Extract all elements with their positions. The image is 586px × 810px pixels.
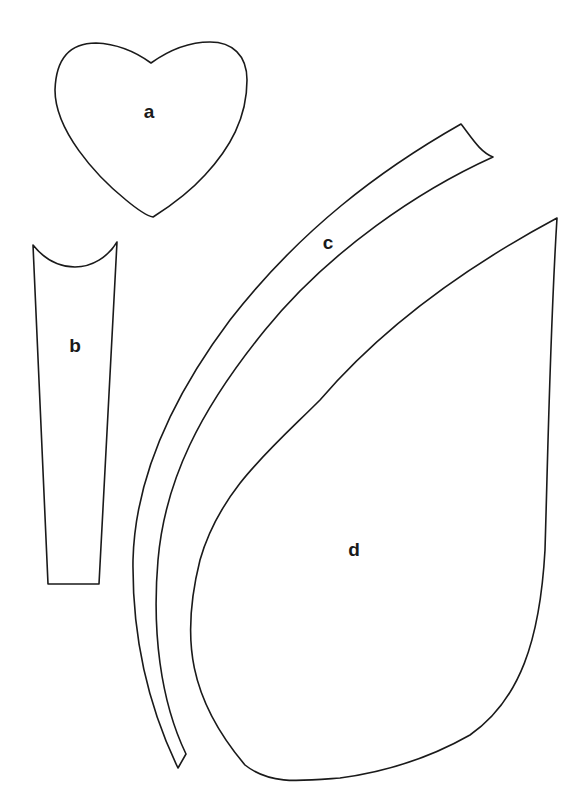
heart-outline — [55, 42, 247, 217]
leaf-outline — [190, 218, 557, 780]
pattern-template: a b c d — [0, 0, 586, 810]
piece-d-label: d — [348, 539, 360, 560]
piece-a-label: a — [144, 101, 155, 122]
piece-d: d — [190, 218, 557, 780]
piece-a: a — [55, 42, 247, 217]
piece-b: b — [33, 242, 117, 584]
strip-outline — [33, 242, 117, 584]
piece-b-label: b — [69, 335, 81, 356]
piece-c: c — [133, 124, 493, 768]
piece-c-label: c — [323, 232, 334, 253]
stem-outline — [133, 124, 493, 768]
